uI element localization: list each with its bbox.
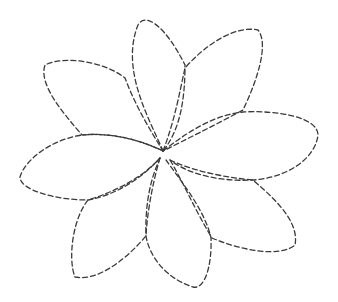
petal-bottom-right [170, 160, 296, 252]
flower-petals [20, 20, 318, 287]
petal-top-left [44, 60, 163, 151]
flower-drawing [0, 0, 338, 302]
petal-right [163, 112, 318, 181]
petal-top-right [163, 29, 262, 151]
petal-bottom-left [72, 158, 160, 278]
petal-left [20, 134, 163, 200]
petal-top [132, 20, 185, 151]
petal-bottom [146, 158, 211, 287]
